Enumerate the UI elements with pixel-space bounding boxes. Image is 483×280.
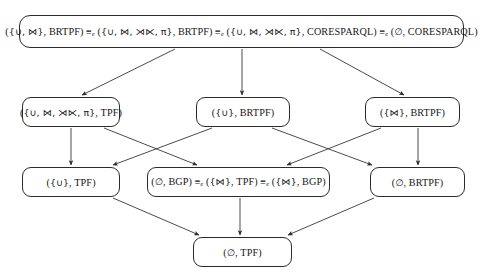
- edge-top-to-r2-right: [320, 49, 404, 95]
- node-r2-mid-label: ({∪}, BRTPF): [212, 107, 274, 118]
- node-r3-right-label: (∅, BRTPF): [392, 177, 444, 188]
- node-top: ({∪, ⋈}, BRTPF) ≡e ({∪, ⋈, ⋊⋉, π}, BRTPF…: [19, 15, 464, 48]
- edge-r2-mid-to-r3-left: [113, 128, 212, 165]
- node-r3-left-label: ({∪}, TPF): [46, 177, 95, 188]
- node-top-label: ({∪, ⋈}, BRTPF) ≡e ({∪, ⋈, ⋊⋉, π}, BRTPF…: [5, 26, 477, 37]
- node-bottom-label: (∅, TPF): [223, 247, 261, 258]
- node-r2-right: ({⋈}, BRTPF): [365, 97, 460, 127]
- node-r3-mid: (∅, BGP) ≡e ({⋈}, TPF) ≡e ({⋈}, BGP): [147, 167, 330, 197]
- node-r3-left: ({∪}, TPF): [22, 167, 120, 197]
- node-r2-left-label: ({∪, ⋈, ⋊⋉, π}, TPF): [20, 107, 122, 118]
- lattice-diagram: ({∪, ⋈}, BRTPF) ≡e ({∪, ⋈, ⋊⋉, π}, BRTPF…: [0, 0, 483, 280]
- node-r2-right-label: ({⋈}, BRTPF): [380, 107, 445, 118]
- node-bottom: (∅, TPF): [193, 237, 292, 267]
- edge-r3-left-to-bottom: [113, 198, 199, 235]
- node-r3-right: (∅, BRTPF): [370, 167, 465, 197]
- edge-r2-mid-to-r3-right: [272, 128, 372, 165]
- edge-r3-right-to-bottom: [288, 198, 374, 235]
- edge-r2-right-to-r3-mid: [287, 128, 381, 165]
- node-r2-mid: ({∪}, BRTPF): [196, 97, 290, 127]
- edge-r2-left-to-r3-mid: [104, 128, 197, 165]
- node-r3-mid-label: (∅, BGP) ≡e ({⋈}, TPF) ≡e ({⋈}, BGP): [151, 176, 325, 187]
- edge-top-to-r2-left: [82, 49, 175, 95]
- node-r2-left: ({∪, ⋈, ⋊⋉, π}, TPF): [22, 97, 120, 127]
